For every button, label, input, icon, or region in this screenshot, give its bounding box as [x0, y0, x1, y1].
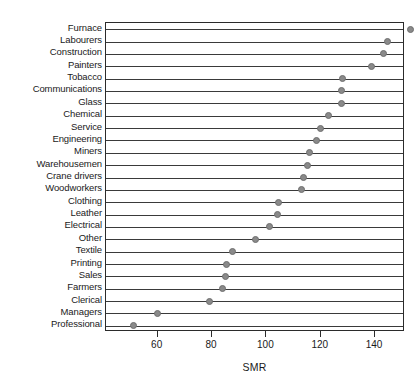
x-axis-title: SMR [105, 360, 404, 374]
x-tick [374, 331, 375, 337]
y-axis-label-labourers: Labourers [0, 35, 102, 45]
data-point-leather [274, 211, 281, 218]
data-point-electrical [266, 223, 273, 230]
category-rule [106, 326, 403, 327]
category-rule [106, 54, 403, 55]
y-axis-label-service: Service [0, 122, 102, 132]
x-tick-label: 80 [191, 339, 231, 351]
y-axis-label-crane-drivers: Crane drivers [0, 171, 102, 181]
data-point-crane-drivers [300, 174, 307, 181]
data-point-painters [368, 63, 375, 70]
category-rule [106, 91, 403, 92]
data-point-other [252, 236, 259, 243]
category-rule [106, 227, 403, 228]
y-axis-label-textile: Textile [0, 245, 102, 255]
y-axis-category-labels: FurnaceLabourersConstructionPaintersToba… [0, 22, 102, 331]
data-point-communications [338, 87, 345, 94]
y-axis-label-tobacco: Tobacco [0, 72, 102, 82]
data-point-textile [229, 248, 236, 255]
category-rule [106, 276, 403, 277]
x-tick [211, 331, 212, 337]
data-point-professional [130, 322, 137, 329]
data-point-engineering [313, 137, 320, 144]
data-point-clothing [275, 199, 282, 206]
data-point-tobacco [339, 75, 346, 82]
x-tick [157, 331, 158, 337]
category-rule [106, 128, 403, 129]
category-rule [106, 301, 403, 302]
y-axis-label-professional: Professional [0, 319, 102, 329]
category-rule [106, 153, 403, 154]
category-rule [106, 103, 403, 104]
y-axis-label-construction: Construction [0, 47, 102, 57]
category-rule [106, 116, 403, 117]
x-tick [265, 331, 266, 337]
data-point-printing [223, 261, 230, 268]
y-axis-label-warehousemen: Warehousemen [0, 159, 102, 169]
category-rule [106, 190, 403, 191]
category-rule [106, 202, 403, 203]
plot-area [105, 22, 404, 331]
y-axis-label-clothing: Clothing [0, 196, 102, 206]
category-rule [106, 178, 403, 179]
data-point-chemical [325, 112, 332, 119]
y-axis-label-electrical: Electrical [0, 220, 102, 230]
category-rule [106, 140, 403, 141]
data-point-woodworkers [298, 186, 305, 193]
x-axis: 6080100120140 [105, 331, 404, 361]
category-rule [106, 264, 403, 265]
category-rule [106, 42, 403, 43]
data-point-clerical [206, 298, 213, 305]
x-tick-label: 120 [300, 339, 340, 351]
category-rule [106, 313, 403, 314]
x-tick-label: 140 [354, 339, 394, 351]
y-axis-label-painters: Painters [0, 60, 102, 70]
data-point-glass [338, 100, 345, 107]
y-axis-label-glass: Glass [0, 97, 102, 107]
data-point-warehousemen [304, 162, 311, 169]
x-tick-label: 100 [245, 339, 285, 351]
data-point-furnace [407, 26, 414, 33]
y-axis-label-communications: Communications [0, 84, 102, 94]
y-axis-label-printing: Printing [0, 258, 102, 268]
x-tick [320, 331, 321, 337]
data-point-construction [380, 50, 387, 57]
data-point-managers [154, 310, 161, 317]
data-point-miners [306, 149, 313, 156]
category-rule [106, 215, 403, 216]
data-point-labourers [384, 38, 391, 45]
y-axis-label-miners: Miners [0, 146, 102, 156]
category-rule [106, 79, 403, 80]
data-point-sales [222, 273, 229, 280]
x-tick-label: 60 [137, 339, 177, 351]
y-axis-label-furnace: Furnace [0, 23, 102, 33]
smr-dot-plot: FurnaceLabourersConstructionPaintersToba… [0, 0, 418, 389]
y-axis-label-sales: Sales [0, 270, 102, 280]
y-axis-label-engineering: Engineering [0, 134, 102, 144]
y-axis-label-farmers: Farmers [0, 282, 102, 292]
y-axis-label-other: Other [0, 233, 102, 243]
y-axis-label-chemical: Chemical [0, 109, 102, 119]
category-rule [106, 289, 403, 290]
category-rule [106, 66, 403, 67]
category-rule [106, 252, 403, 253]
category-rule [106, 165, 403, 166]
y-axis-label-clerical: Clerical [0, 295, 102, 305]
data-point-farmers [219, 285, 226, 292]
data-point-service [317, 125, 324, 132]
y-axis-label-leather: Leather [0, 208, 102, 218]
y-axis-label-woodworkers: Woodworkers [0, 183, 102, 193]
y-axis-label-managers: Managers [0, 307, 102, 317]
category-rule [106, 29, 403, 30]
